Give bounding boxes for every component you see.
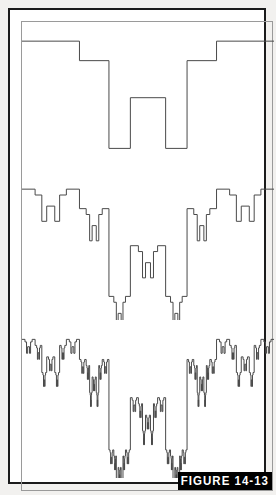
figure-number-label: FIGURE 14-13 [181,475,269,488]
waveform-trace-iteration-1 [22,41,274,148]
waveform-plot-iteration-3 [22,316,274,478]
waveform-panel-iteration-3 [22,316,274,478]
waveform-plot-iteration-1 [22,20,274,172]
figure-number-banner: FIGURE 14-13 [178,472,272,490]
waveform-trace-iteration-2 [22,189,274,320]
waveform-plot-iteration-2 [22,168,274,320]
figure-frame: FIGURE 14-13 [8,8,266,484]
figure-root: FIGURE 14-13 [0,0,276,495]
waveform-trace-iteration-3 [22,339,274,478]
waveform-panel-iteration-2 [22,168,274,320]
waveform-panel-iteration-1 [22,20,274,172]
